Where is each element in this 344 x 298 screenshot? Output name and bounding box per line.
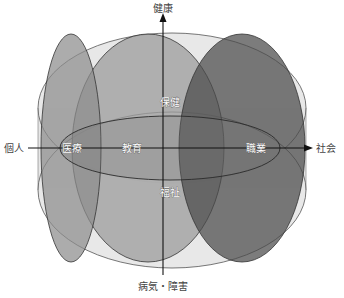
region-label-education: 教育 bbox=[122, 142, 142, 154]
axis-label-health: 健康 bbox=[153, 2, 173, 14]
axis-label-illness-disability: 病気・障害 bbox=[138, 280, 188, 292]
up-arrow-icon bbox=[160, 13, 167, 22]
region-label-health-care: 保健 bbox=[160, 96, 180, 108]
region-label-medical: 医療 bbox=[62, 142, 82, 154]
region-label-welfare: 福祉 bbox=[160, 186, 180, 198]
axis-label-society: 社会 bbox=[316, 142, 336, 154]
right-arrow-icon bbox=[304, 145, 313, 152]
region-label-vocation: 職業 bbox=[246, 142, 266, 154]
axis-label-individual: 個人 bbox=[4, 142, 24, 154]
rehabilitation-domains-diagram: 健康 病気・障害 個人 社会 医療 教育 職業 保健 福祉 bbox=[0, 0, 344, 298]
